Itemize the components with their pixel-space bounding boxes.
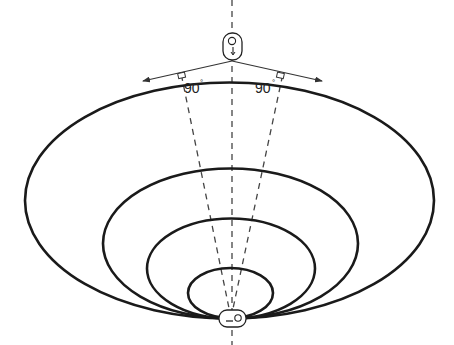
beam-left-dashed-line [182, 78, 231, 318]
degree-symbol-right: ° [272, 78, 275, 87]
angle-label-left: 90 [184, 80, 200, 96]
top-device-icon [223, 33, 242, 60]
right-angle-markers [178, 72, 285, 78]
degree-symbol-left: ° [200, 78, 203, 87]
left-arrow-line [143, 61, 232, 81]
right-angle-marker-right [276, 72, 284, 78]
angle-label-right: 90 [255, 80, 271, 96]
lobe-outer [25, 83, 434, 319]
lobe-second [103, 169, 358, 319]
bottom-device-icon [219, 310, 246, 327]
right-arrow-line [232, 61, 322, 81]
radiation-lobes [25, 83, 434, 319]
beam-right-dashed-line [231, 78, 282, 318]
right-angle-marker-left [178, 72, 186, 78]
radiation-pattern-diagram: 90 ° 90 ° [0, 0, 454, 345]
